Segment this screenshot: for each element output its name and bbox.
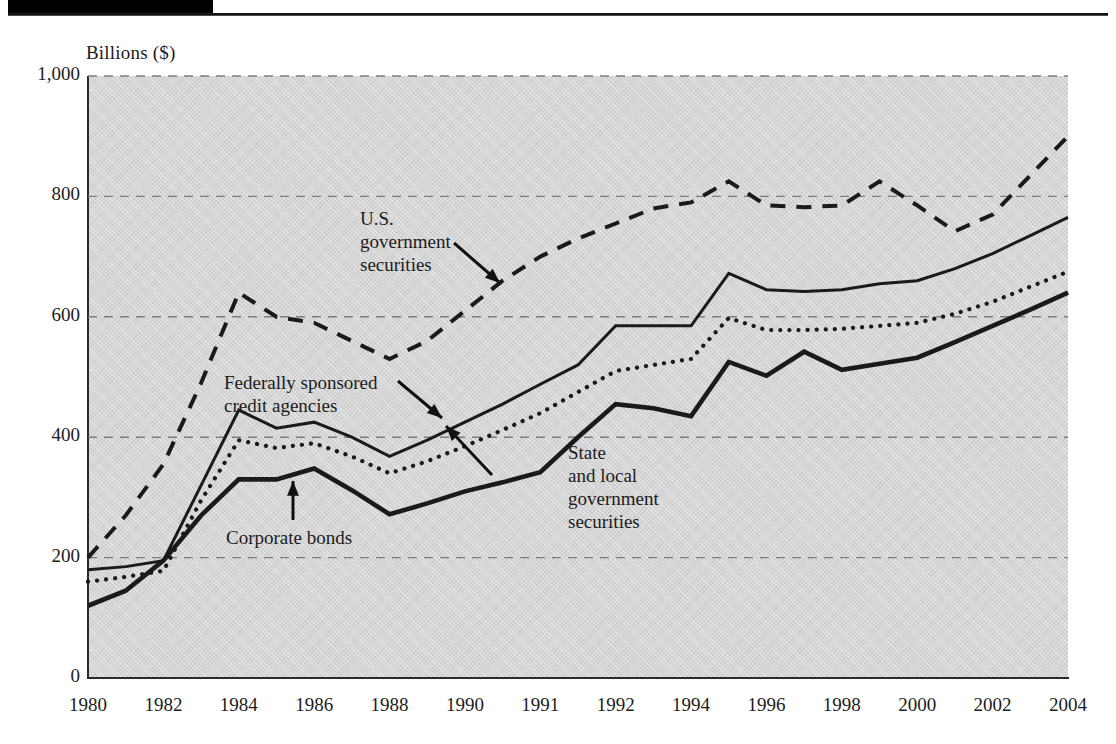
chart-page: Billions ($) 02004006008001,000 19801982… [0, 0, 1116, 744]
annotation-us-government-securities: U.S. government securities [360, 207, 451, 276]
annotation-federally-sponsored-credit-agencies: Federally sponsored credit agencies [224, 371, 378, 417]
annotation-state-and-local-government-securities: State and local government securities [568, 441, 659, 533]
annotation-corporate-bonds: Corporate bonds [226, 526, 352, 549]
chart-svg [0, 0, 1116, 744]
